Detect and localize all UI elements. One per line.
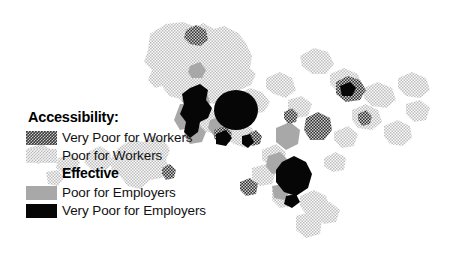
- legend-label-very-poor-for-employers: Very Poor for Employers: [62, 203, 206, 219]
- map-figure: Accessibility: Very Poor for Workers Poo…: [0, 0, 452, 257]
- legend-header-accessibility: Accessibility:: [28, 108, 248, 126]
- legend-swatch-poor-for-workers: [26, 149, 57, 163]
- legend-item-poor-for-workers: Poor for Workers: [26, 147, 248, 164]
- legend-label-very-poor-for-workers: Very Poor for Workers: [62, 130, 192, 146]
- legend-subheader-effective: Effective: [62, 165, 248, 182]
- legend-swatch-poor-for-employers: [26, 186, 57, 200]
- legend: Accessibility: Very Poor for Workers Poo…: [26, 108, 248, 220]
- legend-swatch-very-poor-for-employers: [26, 204, 57, 218]
- legend-item-very-poor-for-employers: Very Poor for Employers: [26, 202, 248, 219]
- legend-item-poor-for-employers: Poor for Employers: [26, 184, 248, 201]
- legend-item-very-poor-for-workers: Very Poor for Workers: [26, 129, 248, 146]
- legend-label-poor-for-employers: Poor for Employers: [62, 185, 176, 201]
- legend-label-poor-for-workers: Poor for Workers: [62, 148, 162, 164]
- legend-swatch-very-poor-for-workers: [26, 131, 57, 145]
